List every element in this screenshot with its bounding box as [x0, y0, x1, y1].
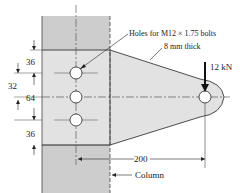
span-label: 200: [134, 154, 148, 164]
load-label: 12 kN: [210, 62, 233, 72]
dim-bottom: 36: [26, 129, 36, 139]
thickness-label: 8 mm thick: [164, 42, 200, 51]
holes-label: Holes for M12 × 1.75 bolts: [129, 29, 216, 38]
column-leader-arrow: [112, 173, 116, 177]
load-hole: [199, 91, 211, 103]
dim-pitch: 32: [8, 81, 17, 91]
bracket-diagram: 12 kN Holes for M12 × 1.75 bolts 8 mm th…: [0, 0, 240, 193]
thickness-leader: [150, 48, 162, 60]
bolt-hole-middle: [70, 91, 82, 103]
column-label: Column: [135, 170, 165, 180]
span-arrow-right: [201, 157, 205, 161]
dim-top: 36: [26, 57, 36, 67]
dim-total: 64: [26, 93, 36, 103]
